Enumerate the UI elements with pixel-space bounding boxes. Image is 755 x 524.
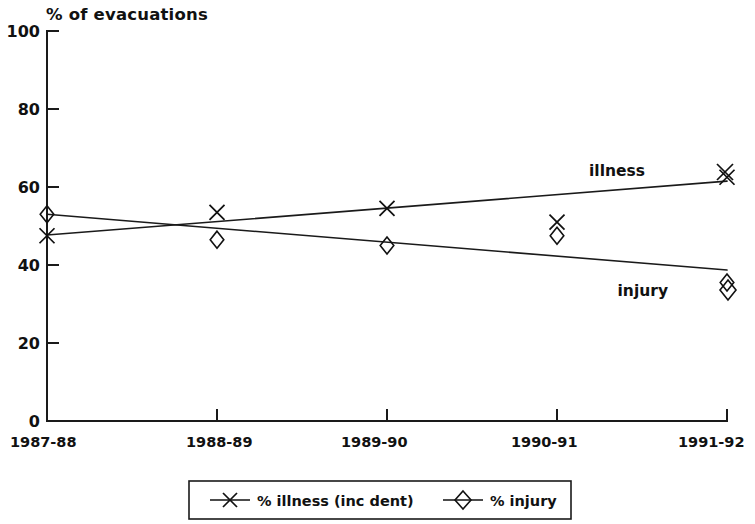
legend-item-illness[interactable]: % illness (inc dent) <box>210 493 414 509</box>
evacuations-line-chart: % of evacuations 100 80 60 40 20 0 <box>0 0 755 524</box>
x-tick-label-1989-90: 1989-90 <box>341 434 408 450</box>
y-tick-label-40: 40 <box>18 256 40 275</box>
x-tick-label-1987-88: 1987-88 <box>10 434 77 450</box>
diamond-marker-icon <box>443 491 483 509</box>
data-points-injury <box>40 206 734 291</box>
x-axis-ticks <box>47 409 727 421</box>
y-tick-label-100: 100 <box>7 22 40 41</box>
legend-item-injury[interactable]: % injury <box>443 491 557 509</box>
x-tick-label-1991-92: 1991-92 <box>678 434 745 450</box>
y-tick-label-0: 0 <box>29 412 40 431</box>
x-tick-label-1990-91: 1990-91 <box>511 434 578 450</box>
chart-title: % of evacuations <box>46 5 208 24</box>
series-annotation-illness: illness <box>589 162 645 180</box>
series-annotation-injury: injury <box>618 282 668 300</box>
legend-label-injury: % injury <box>490 493 557 509</box>
chart-axes <box>47 31 727 421</box>
y-tick-label-80: 80 <box>18 100 40 119</box>
data-point-x-1988-89 <box>210 205 225 220</box>
trend-line-injury <box>47 214 727 270</box>
chart-container: % of evacuations 100 80 60 40 20 0 <box>0 0 755 524</box>
data-point-diamond-1990-91 <box>550 227 564 244</box>
data-point-x-1991-92 <box>720 170 735 185</box>
data-points-illness <box>40 170 735 244</box>
y-axis-ticks <box>47 31 59 421</box>
legend-label-illness: % illness (inc dent) <box>257 493 414 509</box>
y-axis-tick-labels: 100 80 60 40 20 0 <box>7 22 40 431</box>
trend-lines <box>47 181 727 270</box>
y-tick-label-20: 20 <box>18 334 40 353</box>
data-point-diamond-1989-90 <box>380 237 394 254</box>
series-annotation-illness-marker-icon <box>717 164 733 180</box>
chart-legend: % illness (inc dent) % injury <box>189 481 571 519</box>
x-axis-tick-labels: 1987-88 1988-89 1989-90 1990-91 1991-92 <box>10 434 745 450</box>
x-tick-label-1988-89: 1988-89 <box>186 434 253 450</box>
data-point-diamond-1988-89 <box>210 231 224 248</box>
x-marker-icon <box>210 493 250 507</box>
y-tick-label-60: 60 <box>18 178 40 197</box>
data-point-diamond-1991-92 <box>720 274 734 291</box>
